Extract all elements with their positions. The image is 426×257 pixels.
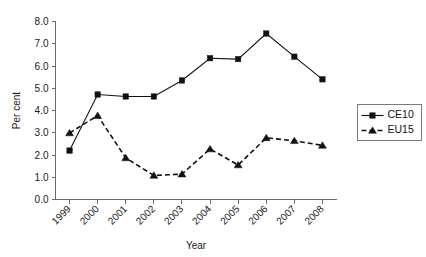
y-tick-label: 3.0 <box>35 127 49 138</box>
data-point-marker <box>290 137 298 143</box>
series-ce10 <box>67 31 325 153</box>
x-tick-label: 2007 <box>274 203 298 227</box>
y-tick-label: 1.0 <box>35 172 49 183</box>
line-chart-svg: 0.01.02.03.04.05.06.07.08.0 199920002001… <box>0 0 426 257</box>
y-tick-label: 2.0 <box>35 150 49 161</box>
y-tick-label: 0.0 <box>35 194 49 205</box>
data-point-marker <box>235 56 240 61</box>
data-point-marker <box>179 78 184 83</box>
data-point-marker <box>94 112 102 118</box>
chart-figure: 0.01.02.03.04.05.06.07.08.0 199920002001… <box>0 0 426 257</box>
legend-label: EU15 <box>388 123 414 135</box>
chart-legend: CE10EU15 <box>358 105 422 141</box>
data-point-marker <box>206 145 214 151</box>
y-axis-ticks: 0.01.02.03.04.05.06.07.08.0 <box>35 16 56 205</box>
series-line <box>70 116 323 176</box>
x-axis-title: Year <box>186 240 207 251</box>
y-tick-label: 8.0 <box>35 16 49 27</box>
series-line <box>70 34 323 151</box>
series-eu15 <box>66 112 327 178</box>
data-point-marker <box>292 54 297 59</box>
x-tick-label: 1999 <box>49 203 73 227</box>
y-tick-label: 7.0 <box>35 38 49 49</box>
data-point-marker <box>264 31 269 36</box>
x-tick-label: 2006 <box>246 203 270 227</box>
data-point-marker <box>95 92 100 97</box>
series-layer <box>66 31 327 178</box>
x-tick-label: 2004 <box>190 203 214 227</box>
data-point-marker <box>370 113 375 118</box>
x-tick-label: 2001 <box>106 203 130 227</box>
x-tick-label: 2008 <box>302 203 326 227</box>
x-axis-ticks: 1999200020012002200320042005200620072008 <box>49 200 326 227</box>
y-tick-label: 4.0 <box>35 105 49 116</box>
x-tick-label: 2000 <box>78 203 102 227</box>
data-point-marker <box>151 94 156 99</box>
data-point-marker <box>67 148 72 153</box>
y-tick-label: 6.0 <box>35 61 49 72</box>
x-tick-label: 2002 <box>134 203 158 227</box>
plot-area: 0.01.02.03.04.05.06.07.08.0 199920002001… <box>35 16 337 227</box>
legend-label: CE10 <box>388 108 414 120</box>
x-tick-label: 2003 <box>162 203 186 227</box>
data-point-marker <box>123 94 128 99</box>
data-point-marker <box>320 77 325 82</box>
x-tick-label: 2005 <box>218 203 242 227</box>
y-tick-label: 5.0 <box>35 83 49 94</box>
data-point-marker <box>122 154 130 160</box>
y-axis-title: Per cent <box>11 92 22 129</box>
data-point-marker <box>207 56 212 61</box>
